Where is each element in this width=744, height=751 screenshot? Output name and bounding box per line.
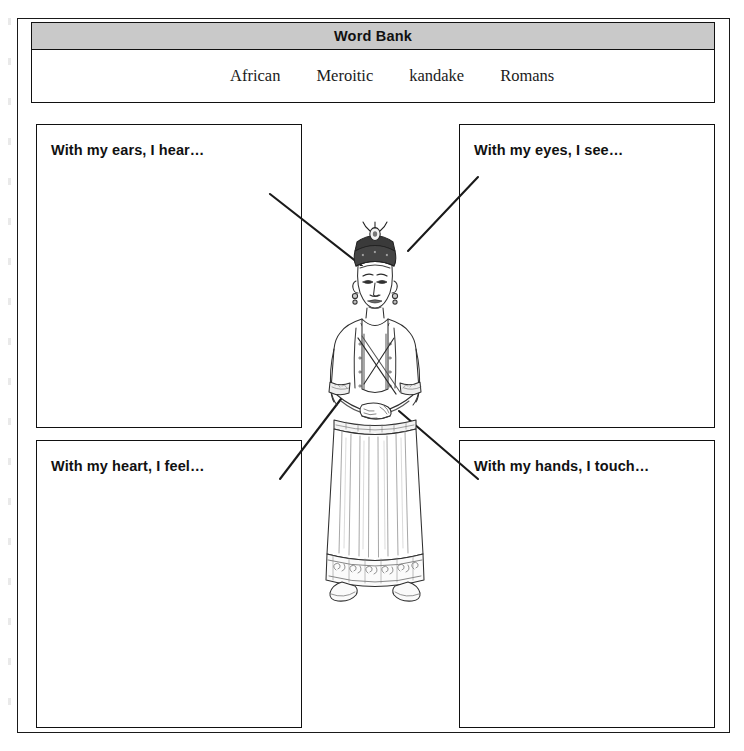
word-bank-body: African Meroitic kandake Romans (32, 50, 714, 102)
answer-box-eyes[interactable]: With my eyes, I see… (459, 124, 715, 428)
kandake-figure-drawing (300, 198, 450, 628)
word-bank-word: Romans (500, 66, 554, 86)
answer-box-heart[interactable]: With my heart, I feel… (36, 440, 302, 728)
crown-icon (354, 222, 396, 266)
word-bank-header: Word Bank (32, 23, 714, 50)
page-perforation-artifact (8, 18, 11, 718)
face (352, 265, 397, 309)
word-bank-word: Meroitic (316, 66, 373, 86)
skirt (327, 429, 423, 561)
word-bank-title: Word Bank (334, 28, 412, 44)
kandake-figure (300, 198, 450, 628)
answer-box-ears-label: With my ears, I hear… (51, 142, 204, 158)
answer-box-eyes-label: With my eyes, I see… (474, 142, 623, 158)
hands (360, 403, 391, 419)
answer-box-heart-label: With my heart, I feel… (51, 458, 205, 474)
word-bank-word: kandake (409, 66, 464, 86)
word-bank-word-list: African Meroitic kandake Romans (230, 66, 554, 86)
worksheet-page: Word Bank African Meroitic kandake Roman… (0, 0, 744, 751)
answer-box-ears[interactable]: With my ears, I hear… (36, 124, 302, 428)
answer-box-hands-label: With my hands, I touch… (474, 458, 649, 474)
word-bank: Word Bank African Meroitic kandake Roman… (31, 22, 715, 103)
word-bank-word: African (230, 66, 280, 86)
answer-box-hands[interactable]: With my hands, I touch… (459, 440, 715, 728)
